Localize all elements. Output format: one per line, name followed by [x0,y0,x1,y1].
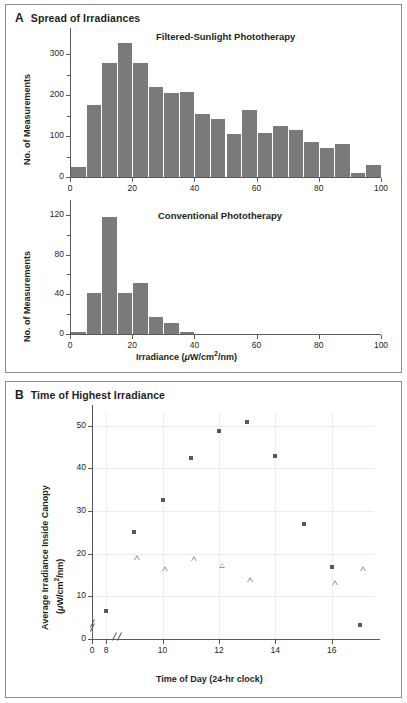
panel-b-header: BTime of Highest Irradiance [15,388,165,402]
y-tick-label: 40 [32,288,64,298]
histogram-bar [334,144,350,177]
x-tick-origin [92,640,93,644]
panel-a: ASpread of Irradiances Filtered-Sunlight… [5,4,402,373]
histogram-bar [210,119,226,177]
histogram-bar [288,130,304,177]
histogram-bar [194,114,210,177]
x-tick-label-origin: 0 [78,645,106,655]
y-tick [66,136,70,137]
panel-b-title: Time of Highest Irradiance [31,389,165,401]
histogram-bar [70,167,86,177]
data-point-square [245,420,249,424]
y-tick [66,215,70,216]
y-axis-line [70,28,71,177]
x-tick-label: 80 [305,183,333,193]
y-tick [66,334,70,335]
data-point-triangle [247,577,253,582]
gridline-vertical [219,413,220,639]
x-tick [257,178,258,182]
histogram-bar [148,87,164,177]
histogram-bar [101,217,117,334]
y-tick-label: 0 [32,328,64,338]
y-tick [66,255,70,256]
x-tick [319,178,320,182]
y-minor-tick [67,157,70,158]
x-tick-label: 10 [149,645,177,655]
data-point-square [302,522,306,526]
x-tick [194,335,195,339]
x-tick-label: 100 [367,183,395,193]
y-tick [66,294,70,295]
panel-b: BTime of Highest Irradiance 010203040508… [5,381,402,698]
x-tick-label: 60 [243,340,271,350]
x-tick [163,640,164,644]
x-tick [319,335,320,339]
histogram-bar [226,134,242,177]
x-axis-line [70,334,381,335]
histogram-bar [179,92,195,177]
x-tick-label: 40 [180,183,208,193]
data-point-triangle [134,555,140,560]
plot-area-conventional: 04080120020406080100 [70,210,381,334]
histogram-bar [101,63,117,177]
histogram-bar [163,323,179,334]
y-tick-label: 40 [58,462,86,472]
y-tick-label: 200 [32,89,64,99]
y-axis-line [92,405,93,639]
y-tick-label: 100 [32,130,64,140]
y-tick [88,468,92,469]
x-tick [132,178,133,182]
y-minor-tick [67,314,70,315]
x-tick [275,640,276,644]
y-tick [88,511,92,512]
x-tick-label: 0 [56,183,84,193]
y-tick-label: 0 [58,633,86,643]
histogram-bar [319,148,335,177]
x-tick [70,335,71,339]
y-tick-label: 0 [32,171,64,181]
x-tick [219,640,220,644]
x-tick [381,335,382,339]
x-tick-label: 20 [118,340,146,350]
x-axis-line [70,177,381,178]
x-tick-label: 16 [318,645,346,655]
y-tick-label: 20 [58,548,86,558]
x-axis-line [92,639,380,640]
x-tick-label: 40 [180,340,208,350]
data-point-triangle [360,566,366,571]
gridline-vertical [275,413,276,639]
y-axis-title-line1: Average Irradiance Inside Canopy [40,485,50,630]
histogram-bar [303,142,319,177]
data-point-square [330,565,334,569]
y-tick [88,639,92,640]
x-tick [70,178,71,182]
histogram-bar [132,283,148,334]
histogram-bar [117,43,133,177]
gridline-vertical [332,413,333,639]
y-tick-label: 300 [32,48,64,58]
data-point-square [104,609,108,613]
x-tick-label: 60 [243,183,271,193]
x-axis-title: Time of Day (24-hr clock) [156,674,263,684]
chart-conventional: Conventional Phototherapy 04080120020406… [6,195,403,374]
data-point-square [161,498,165,502]
y-axis-line [70,200,71,334]
y-tick-label: 30 [58,505,86,515]
x-tick-label: 12 [205,645,233,655]
y-tick [66,177,70,178]
x-tick-label: 0 [56,340,84,350]
y-axis-title-bottom: No. of Measurements [22,251,32,342]
y-minor-tick [67,235,70,236]
x-tick-label: 100 [367,340,395,350]
y-tick [66,54,70,55]
histogram-bar [365,165,381,177]
histogram-bar [117,293,133,334]
chart-filtered-sunlight: Filtered-Sunlight Phototherapy 010020030… [6,5,403,195]
plot-area-filtered-sunlight: 0100200300020406080100 [70,38,381,177]
histogram-bar [257,133,273,177]
data-point-triangle [219,563,225,568]
x-tick [106,640,107,644]
y-tick [88,596,92,597]
histogram-bar [272,126,288,177]
x-axis-title: Irradiance (μW/cm2/nm) [136,350,237,362]
